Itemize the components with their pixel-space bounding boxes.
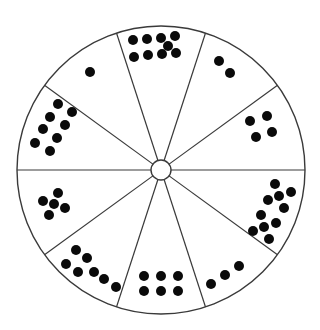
dot — [71, 245, 81, 255]
dot — [128, 35, 138, 45]
dot — [156, 286, 166, 296]
dot — [60, 120, 70, 130]
dot — [263, 195, 273, 205]
dot — [173, 271, 183, 281]
dot — [251, 132, 261, 142]
dot — [206, 279, 216, 289]
dot — [270, 179, 280, 189]
center-hub — [151, 160, 171, 180]
dot — [245, 116, 255, 126]
dot — [214, 56, 224, 66]
dot — [279, 203, 289, 213]
dot — [44, 210, 54, 220]
dot — [259, 222, 269, 232]
dot — [89, 267, 99, 277]
dot — [61, 259, 71, 269]
dot — [156, 33, 166, 43]
sector-upper-left — [85, 67, 95, 77]
dot — [170, 31, 180, 41]
dot — [73, 267, 83, 277]
dot — [67, 107, 77, 117]
dot — [156, 271, 166, 281]
dot — [53, 188, 63, 198]
dot — [30, 138, 40, 148]
dot — [143, 50, 153, 60]
dot — [274, 191, 284, 201]
dot — [129, 52, 139, 62]
dot — [82, 253, 92, 263]
dot — [262, 111, 272, 121]
dot — [53, 99, 63, 109]
dot — [45, 112, 55, 122]
dot — [157, 49, 167, 59]
dot — [234, 261, 244, 271]
dot — [220, 270, 230, 280]
dot — [38, 124, 48, 134]
dot — [271, 218, 281, 228]
dot — [267, 127, 277, 137]
dot — [139, 286, 149, 296]
dot — [99, 274, 109, 284]
dot — [139, 271, 149, 281]
dot — [248, 226, 258, 236]
dot — [264, 234, 274, 244]
dot-wheel-diagram — [0, 0, 320, 330]
dot — [163, 41, 173, 51]
dot — [45, 146, 55, 156]
dot — [111, 282, 121, 292]
dot — [60, 203, 70, 213]
dot — [225, 68, 235, 78]
dot — [142, 34, 152, 44]
dot — [286, 187, 296, 197]
dot — [256, 210, 266, 220]
dot — [173, 286, 183, 296]
dot — [49, 199, 59, 209]
dot — [38, 196, 48, 206]
dot — [171, 48, 181, 58]
dot — [85, 67, 95, 77]
dot — [52, 133, 62, 143]
